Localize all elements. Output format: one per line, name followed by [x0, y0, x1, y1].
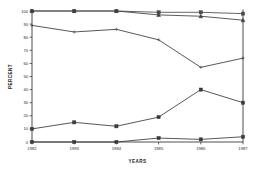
y-tick-label: 30: [24, 100, 29, 105]
x-tick-label: 1983: [70, 146, 80, 151]
x-tick-label: 1985: [154, 146, 164, 151]
data-point-series-5: [115, 140, 118, 143]
series-line-series-5: [32, 137, 243, 142]
x-axis-title: YEARS: [129, 159, 147, 164]
y-axis-ticks: 0102030405060708090100: [21, 9, 32, 145]
data-point-series-4: [241, 101, 244, 104]
x-tick-label: 1984: [112, 146, 122, 151]
data-point-series-5: [199, 138, 202, 141]
series-line-series-3: [32, 25, 243, 67]
y-axis-title: PERCENT: [8, 64, 13, 89]
y-tick-label: 70: [24, 48, 29, 53]
y-tick-label: 0: [26, 140, 29, 145]
x-tick-label: 1987: [238, 146, 248, 151]
data-point-series-4: [30, 127, 33, 130]
series-line-series-4: [32, 90, 243, 129]
y-tick-label: 40: [24, 87, 29, 92]
data-point-series-4: [115, 125, 118, 128]
data-point-series-5: [30, 140, 33, 143]
y-tick-label: 60: [24, 61, 29, 66]
series-lines: [32, 11, 243, 142]
y-tick-label: 50: [24, 74, 29, 79]
data-point-series-5: [157, 136, 160, 139]
data-point-series-5: [241, 135, 244, 138]
data-point-series-4: [157, 116, 160, 119]
y-tick-label: 80: [24, 35, 29, 40]
y-tick-label: 90: [24, 22, 29, 27]
y-tick-label: 100: [21, 9, 29, 14]
x-tick-label: 1982: [27, 146, 37, 151]
data-point-series-1: [199, 11, 202, 14]
series-markers: [30, 9, 245, 143]
data-point-series-4: [199, 88, 202, 91]
data-point-series-5: [73, 140, 76, 143]
data-point-series-1: [241, 12, 244, 15]
data-point-series-4: [73, 121, 76, 124]
y-tick-label: 10: [24, 126, 29, 131]
line-chart: 0102030405060708090100 19821983198419851…: [0, 0, 262, 173]
chart-container: 0102030405060708090100 19821983198419851…: [0, 0, 262, 173]
x-tick-label: 1986: [196, 146, 206, 151]
x-axis-ticks: 198219831984198519861987: [27, 142, 248, 151]
y-tick-label: 20: [24, 113, 29, 118]
